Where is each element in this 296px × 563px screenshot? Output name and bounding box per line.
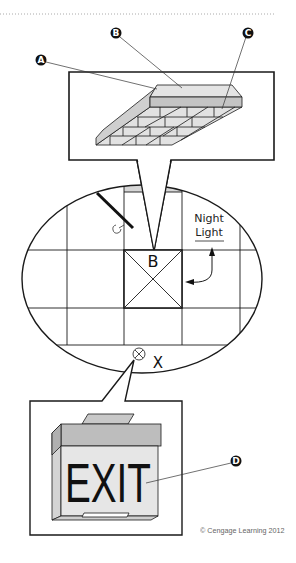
copyright-notice: © Cengage Learning 2012 xyxy=(200,526,285,535)
fixture-b-tag: B xyxy=(148,252,159,271)
exit-plan-symbol xyxy=(133,348,145,360)
exit-sign-text: EXIT xyxy=(65,451,151,514)
callout-label-d: D xyxy=(231,456,242,467)
svg-text:D: D xyxy=(232,456,239,466)
exit-plan-tag: X xyxy=(153,354,163,372)
svg-text:B: B xyxy=(113,28,120,38)
svg-text:C: C xyxy=(245,28,252,38)
callout-label-a: A xyxy=(36,55,47,66)
callout-label-b: B xyxy=(111,28,122,39)
ceiling-plan: B Night Light X xyxy=(10,150,270,373)
night-light-label-line1: Night xyxy=(194,212,224,225)
svg-text:A: A xyxy=(38,55,45,65)
night-light-label-line2: Light xyxy=(195,226,223,239)
callout-label-c: C xyxy=(243,28,254,39)
night-light-arrow xyxy=(185,247,215,285)
ceiling-plan-diagram: A B C xyxy=(0,0,296,563)
exit-sign-callout: EXIT D xyxy=(30,360,242,535)
switch-symbol xyxy=(113,225,124,233)
door-swing-line xyxy=(97,193,133,228)
